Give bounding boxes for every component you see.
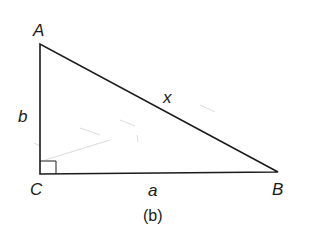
faint-marks	[34, 105, 215, 160]
side-label-a: a	[148, 181, 157, 200]
right-angle-marker	[40, 161, 56, 174]
triangle	[40, 44, 278, 174]
figure-caption: (b)	[143, 207, 163, 224]
right-triangle-diagram: A C B b a x (b)	[0, 0, 311, 241]
vertex-label-a: A	[32, 21, 44, 40]
vertex-label-b: B	[272, 180, 283, 199]
side-label-b: b	[18, 107, 27, 126]
vertex-label-c: C	[30, 180, 43, 199]
side-label-x: x	[162, 88, 172, 107]
